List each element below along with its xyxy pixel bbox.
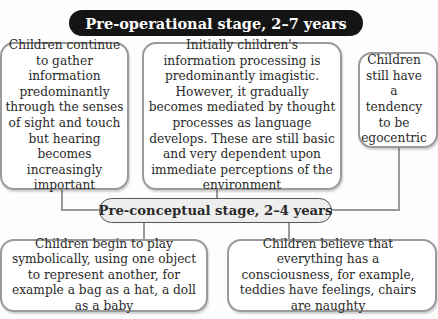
connector-right-horizontal [330,209,400,211]
info-box-animism: Children believe that everything has a c… [227,239,437,312]
info-box-processing-text: Initially children's information process… [148,38,336,194]
connector-right-vertical [398,146,400,211]
stage-title-text: Pre-operational stage, 2–7 years [85,15,346,32]
info-box-senses: Children continue to gather information … [0,42,129,190]
stage-title: Pre-operational stage, 2–7 years [69,10,363,36]
info-box-senses-text: Children continue to gather information … [3,38,126,194]
sub-stage-label-text: Pre-conceptual stage, 2–4 years [99,203,333,218]
sub-stage-label: Pre-conceptual stage, 2–4 years [99,198,332,223]
info-box-animism-text: Children believe that everything has a c… [231,237,425,315]
info-box-egocentric-text: Children still have a tendency to be ego… [361,53,427,147]
info-box-processing: Initially children's information process… [142,42,342,190]
info-box-symbolic-play-text: Children begin to play symbolically, usi… [10,237,198,315]
info-box-egocentric: Children still have a tendency to be ego… [358,52,438,148]
connector-left-horizontal [61,209,101,211]
info-box-symbolic-play: Children begin to play symbolically, usi… [0,239,208,312]
